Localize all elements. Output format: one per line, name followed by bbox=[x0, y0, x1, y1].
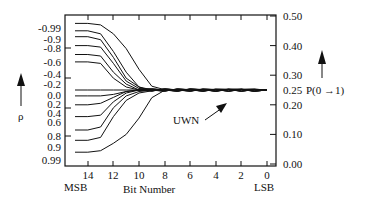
uwn-annotation: UWN bbox=[173, 114, 199, 126]
right-tick-label: 0.40 bbox=[283, 40, 303, 52]
x-tick-label: 12 bbox=[108, 169, 119, 181]
left-tick-label: 0.9 bbox=[47, 141, 61, 153]
x-tick-label: 6 bbox=[187, 169, 193, 181]
right-tick-label: 0.10 bbox=[283, 128, 303, 140]
rho-up-arrow-icon bbox=[17, 73, 25, 106]
p-up-arrow-icon bbox=[318, 50, 326, 78]
curve-rho-0.99 bbox=[75, 89, 267, 152]
right-axis-label: P(0 →1) bbox=[306, 84, 345, 97]
x-tick-label: 8 bbox=[162, 169, 168, 181]
x-tick-label: 4 bbox=[213, 169, 219, 181]
x-tick-label: 0 bbox=[264, 169, 270, 181]
curve-rho--0.8 bbox=[75, 37, 267, 91]
left-tick-label: -0.6 bbox=[44, 56, 62, 68]
x-tick-label: 14 bbox=[83, 169, 95, 181]
x-axis-label: Bit Number bbox=[123, 183, 176, 195]
curve-rho--0.99 bbox=[75, 23, 267, 91]
left-tick-label: -0.8 bbox=[44, 42, 62, 54]
curve-rho--0.9 bbox=[75, 31, 267, 91]
right-tick-label: 0.50 bbox=[283, 10, 303, 22]
lsb-label: LSB bbox=[254, 181, 274, 193]
curve-rho--0.4 bbox=[75, 55, 267, 92]
left-tick-label: 0.99 bbox=[42, 154, 62, 166]
bit-transition-chart: -0.99-0.9-0.8-0.6-0.4-0.20.00.20.40.60.8… bbox=[0, 0, 366, 205]
msb-label: MSB bbox=[64, 181, 87, 193]
left-tick-label: 0.6 bbox=[47, 116, 61, 128]
right-tick-label: 0.20 bbox=[283, 99, 303, 111]
right-tick-label: 0.00 bbox=[283, 158, 303, 170]
x-axis-ticks: 14121086420 bbox=[83, 15, 271, 181]
left-axis-ticks: -0.99-0.9-0.8-0.6-0.4-0.20.00.20.40.60.8… bbox=[38, 22, 71, 166]
curve-rho-0.6 bbox=[75, 89, 267, 117]
right-axis-ticks: 0.500.400.300.250.200.100.00 bbox=[270, 10, 303, 170]
uwn-arrow-icon bbox=[205, 103, 227, 120]
curve-rho--0.6 bbox=[75, 46, 267, 92]
curves bbox=[75, 23, 267, 152]
x-tick-label: 2 bbox=[238, 169, 244, 181]
left-axis-label: ρ bbox=[18, 110, 24, 122]
curve-rho-0.9 bbox=[75, 89, 267, 140]
curve-rho--0.2 bbox=[75, 62, 267, 91]
x-tick-label: 10 bbox=[134, 169, 146, 181]
right-tick-label: 0.25 bbox=[283, 84, 303, 96]
right-tick-label: 0.30 bbox=[283, 69, 303, 81]
